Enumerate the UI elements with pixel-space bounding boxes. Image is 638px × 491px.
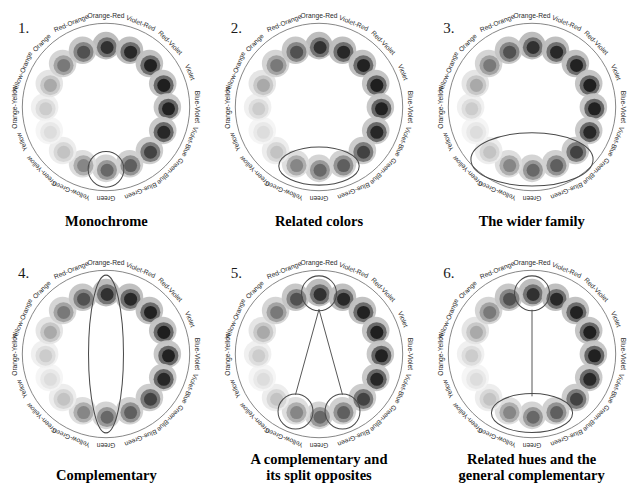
hue-swatch[interactable]	[518, 155, 546, 183]
hue-swatch[interactable]	[244, 93, 272, 121]
hue-label: Violet	[609, 310, 622, 328]
wheel-container: Orange-RedViolet-RedRed-VioletVioletBlue…	[226, 14, 412, 200]
scheme-panel: 5.Orange-RedViolet-RedRed-VioletVioletBl…	[213, 245, 426, 491]
hue-swatch[interactable]	[249, 364, 277, 392]
hue-swatch[interactable]	[149, 317, 177, 345]
hue-swatch[interactable]	[494, 37, 522, 65]
hue-swatch[interactable]	[36, 364, 64, 392]
hue-swatch[interactable]	[154, 93, 182, 121]
hue-label: Green	[97, 195, 116, 202]
hue-swatch[interactable]	[457, 340, 485, 368]
hue-swatch[interactable]	[518, 402, 546, 430]
hue-label: Violet-Red	[551, 261, 583, 279]
hue-swatch[interactable]	[31, 93, 59, 121]
hue-swatch[interactable]	[494, 284, 522, 312]
color-wheel: Orange-RedViolet-RedRed-VioletVioletBlue…	[439, 261, 625, 447]
hue-swatch[interactable]	[541, 150, 569, 178]
hue-label: Violet	[609, 63, 622, 81]
panel-caption: Related hues and thegeneral complementar…	[425, 451, 638, 483]
hue-swatch[interactable]	[329, 150, 357, 178]
hue-swatch[interactable]	[149, 70, 177, 98]
hue-label: Green-Blue	[156, 157, 185, 186]
hue-label: Green-Blue	[156, 404, 185, 433]
panel-grid: 1.Orange-RedViolet-RedRed-VioletVioletBl…	[0, 0, 638, 491]
panel-caption: Related colors	[213, 213, 426, 229]
hue-swatch[interactable]	[93, 155, 121, 183]
connector-line	[319, 309, 342, 394]
hue-swatch[interactable]	[329, 397, 357, 425]
color-wheel: Orange-RedViolet-RedRed-VioletVioletBlue…	[226, 261, 412, 447]
hue-swatch[interactable]	[116, 150, 144, 178]
hue-swatch[interactable]	[461, 117, 489, 145]
hue-label: Green	[309, 442, 328, 449]
hue-swatch[interactable]	[362, 70, 390, 98]
hue-swatch[interactable]	[282, 284, 310, 312]
panel-caption: Monochrome	[0, 213, 213, 229]
hue-swatch[interactable]	[541, 397, 569, 425]
hue-label: Red-Violet	[583, 276, 610, 303]
hue-label: Violet-Blue	[181, 373, 200, 406]
hue-label: Blue-Green	[124, 181, 159, 201]
scheme-panel: 4.Orange-RedViolet-RedRed-VioletVioletBl…	[0, 245, 213, 491]
wheel-container: Orange-RedViolet-RedRed-VioletVioletBlue…	[13, 14, 199, 200]
hue-swatch[interactable]	[367, 93, 395, 121]
color-wheel: Orange-RedViolet-RedRed-VioletVioletBlue…	[439, 14, 625, 200]
hue-label: Violet-Blue	[606, 126, 625, 159]
hue-label: Orange	[244, 32, 266, 54]
hue-label: Violet-Red	[551, 14, 583, 32]
hue-swatch[interactable]	[93, 279, 121, 307]
hue-label: Violet	[397, 63, 410, 81]
hue-label: Red-Violet	[370, 29, 397, 56]
hue-swatch[interactable]	[575, 70, 603, 98]
connector-line	[295, 309, 318, 394]
hue-label: Violet-Red	[338, 14, 370, 32]
hue-swatch[interactable]	[575, 317, 603, 345]
hue-swatch[interactable]	[579, 340, 607, 368]
hue-swatch[interactable]	[457, 93, 485, 121]
hue-label: Yellow-Orange	[11, 297, 35, 341]
hue-swatch[interactable]	[249, 117, 277, 145]
hue-label: Violet-Red	[125, 261, 157, 279]
hue-swatch[interactable]	[362, 317, 390, 345]
scheme-panel: 2.Orange-RedViolet-RedRed-VioletVioletBl…	[213, 0, 426, 245]
hue-label: Yellow-Orange	[436, 50, 460, 94]
hue-label: Violet	[397, 310, 410, 328]
hue-label: Blue-Violet	[619, 91, 626, 123]
hue-label: Blue-Green	[549, 428, 584, 448]
hue-swatch[interactable]	[93, 32, 121, 60]
hue-swatch[interactable]	[579, 93, 607, 121]
hue-label: Green-Blue	[369, 157, 398, 186]
hue-swatch[interactable]	[305, 402, 333, 430]
hue-swatch[interactable]	[154, 340, 182, 368]
hue-swatch[interactable]	[518, 32, 546, 60]
hue-label: Red-Violet	[583, 29, 610, 56]
hue-label: Orange-Red	[513, 12, 550, 20]
hue-label: Orange	[32, 279, 54, 301]
color-wheel: Orange-RedViolet-RedRed-VioletVioletBlue…	[13, 261, 199, 447]
scheme-panel: 3.Orange-RedViolet-RedRed-VioletVioletBl…	[425, 0, 638, 245]
hue-label: Red-Violet	[370, 276, 397, 303]
hue-swatch[interactable]	[36, 117, 64, 145]
hue-swatch[interactable]	[69, 37, 97, 65]
hue-label: Orange	[32, 32, 54, 54]
hue-swatch[interactable]	[305, 279, 333, 307]
scheme-panel: 6.Orange-RedViolet-RedRed-VioletVioletBl…	[425, 245, 638, 491]
hue-swatch[interactable]	[244, 340, 272, 368]
hue-swatch[interactable]	[305, 155, 333, 183]
hue-swatch[interactable]	[305, 32, 333, 60]
hue-label: Orange	[457, 32, 479, 54]
hue-swatch[interactable]	[31, 340, 59, 368]
wheel-container: Orange-RedViolet-RedRed-VioletVioletBlue…	[226, 261, 412, 447]
hue-swatch[interactable]	[282, 37, 310, 65]
hue-swatch[interactable]	[367, 340, 395, 368]
hue-label: Green-Blue	[581, 404, 610, 433]
hue-label: Yellow-Orange	[436, 297, 460, 341]
hue-label: Orange-Red	[513, 259, 550, 267]
hue-swatch[interactable]	[518, 279, 546, 307]
hue-label: Orange	[244, 279, 266, 301]
hue-label: Orange-Red	[88, 259, 125, 267]
hue-swatch[interactable]	[93, 402, 121, 430]
hue-label: Blue-Green	[124, 428, 159, 448]
hue-label: Blue-Green	[336, 181, 371, 201]
hue-swatch[interactable]	[461, 364, 489, 392]
